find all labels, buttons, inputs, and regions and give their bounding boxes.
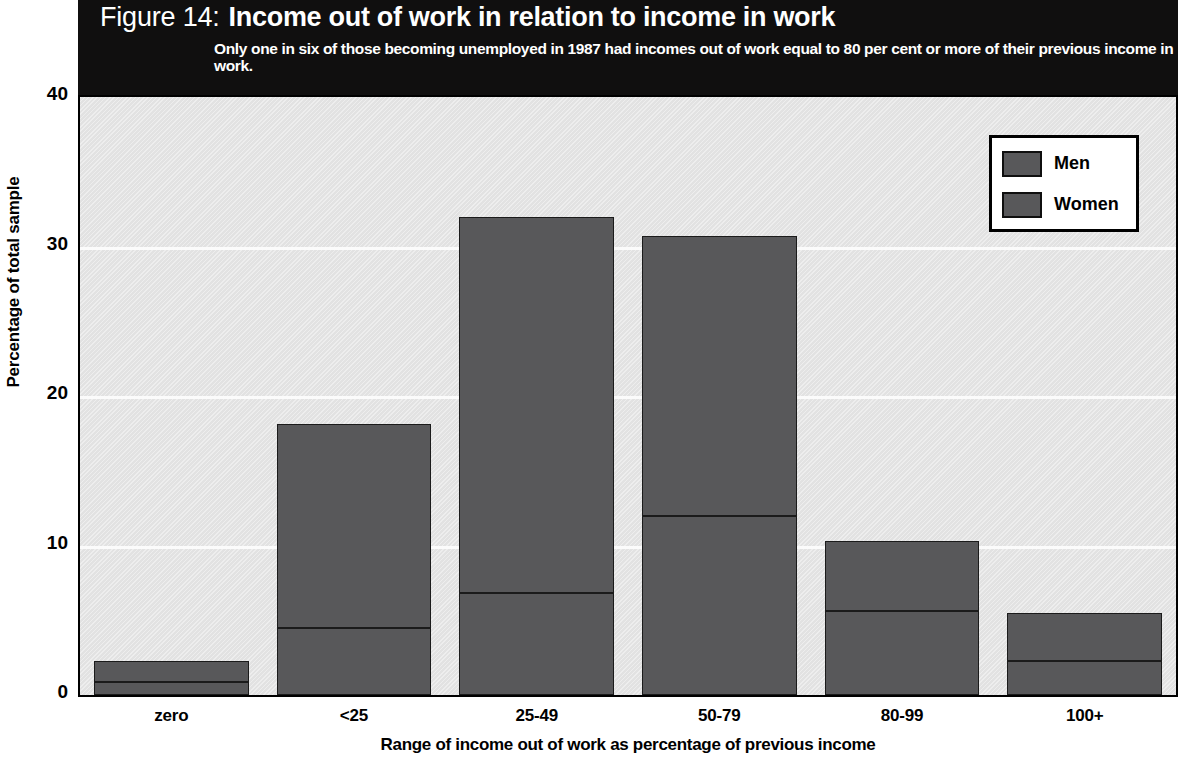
- bar-group-25-49[interactable]: [459, 217, 613, 695]
- figure-title-row: Figure 14:Income out of work in relation…: [100, 2, 835, 33]
- bar-segment-men-50-79[interactable]: [642, 236, 796, 516]
- bar-segment-men-zero[interactable]: [94, 661, 248, 682]
- bar-segment-women-25-49[interactable]: [459, 593, 613, 695]
- bar-group-80-99[interactable]: [825, 541, 979, 695]
- figure-subtitle: Only one in six of those becoming unempl…: [214, 40, 1174, 75]
- x-axis-title: Range of income out of work as percentag…: [78, 735, 1178, 755]
- x-tick-label-<25: <25: [263, 706, 446, 726]
- y-axis-title: Percentage of total sample: [4, 52, 24, 512]
- legend-swatch-women: [1002, 192, 1042, 218]
- bar-group-zero[interactable]: [94, 661, 248, 695]
- bar-segment-women-100+[interactable]: [1007, 661, 1161, 695]
- bar-segment-men-80-99[interactable]: [825, 541, 979, 611]
- legend-item-women[interactable]: Women: [1002, 188, 1132, 222]
- legend-item-men[interactable]: Men: [1002, 147, 1132, 181]
- bar-segment-men-<25[interactable]: [277, 424, 431, 627]
- legend-label-men: Men: [1054, 153, 1090, 174]
- bar-group-<25[interactable]: [277, 424, 431, 695]
- y-tick-label-10: 10: [8, 532, 68, 554]
- x-tick-label-80-99: 80-99: [811, 706, 994, 726]
- page-title: Income out of work in relation to income…: [229, 2, 836, 32]
- plot-area: MenWomen: [78, 95, 1178, 697]
- gridline-30: [80, 247, 1176, 250]
- x-tick-label-50-79: 50-79: [628, 706, 811, 726]
- bar-segment-men-25-49[interactable]: [459, 217, 613, 594]
- figure-header-banner: Figure 14:Income out of work in relation…: [78, 0, 1178, 95]
- y-tick-label-0: 0: [8, 681, 68, 703]
- x-tick-label-25-49: 25-49: [445, 706, 628, 726]
- bar-segment-women-<25[interactable]: [277, 628, 431, 695]
- legend-swatch-men: [1002, 151, 1042, 177]
- bar-segment-men-100+[interactable]: [1007, 613, 1161, 661]
- legend-label-women: Women: [1054, 194, 1119, 215]
- bar-segment-women-zero[interactable]: [94, 682, 248, 695]
- chart-legend: MenWomen: [989, 135, 1139, 232]
- bar-segment-women-50-79[interactable]: [642, 516, 796, 695]
- gridline-20: [80, 396, 1176, 399]
- bar-group-50-79[interactable]: [642, 236, 796, 695]
- x-tick-label-zero: zero: [80, 706, 263, 726]
- bar-group-100+[interactable]: [1007, 613, 1161, 695]
- gridline-10: [80, 546, 1176, 549]
- figure-number: Figure 14:: [100, 2, 220, 32]
- x-tick-label-100+: 100+: [993, 706, 1176, 726]
- bar-segment-women-80-99[interactable]: [825, 611, 979, 695]
